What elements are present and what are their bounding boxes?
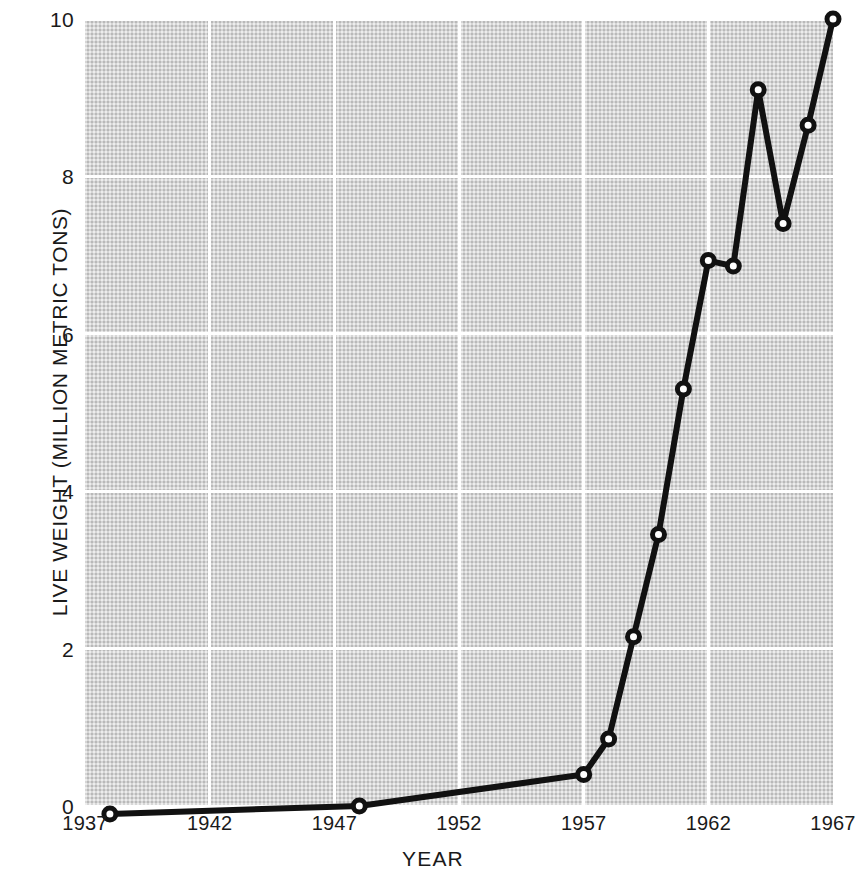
data-point-marker — [777, 218, 789, 230]
data-point-marker — [677, 383, 689, 395]
x-axis-title: YEAR — [0, 847, 866, 871]
data-point-marker — [802, 119, 814, 131]
data-layer — [85, 19, 833, 806]
plot-area — [85, 19, 833, 806]
x-tick-label: 1967 — [810, 813, 855, 833]
data-point-marker — [628, 631, 640, 643]
x-tick-label: 1957 — [561, 813, 606, 833]
x-tick-label: 1962 — [686, 813, 731, 833]
series-line — [110, 19, 833, 814]
data-point-marker — [727, 260, 739, 272]
series-markers — [104, 13, 839, 820]
data-point-marker — [653, 529, 665, 541]
data-point-marker — [827, 13, 839, 25]
y-axis-title: LIVE WEIGHT (MILLION METRIC TONS) — [48, 12, 72, 812]
x-tick-label: 1947 — [312, 813, 357, 833]
data-point-marker — [353, 800, 365, 812]
chart-figure: 0246810 1937194219471952195719621967 YEA… — [0, 0, 866, 892]
x-tick-label: 1937 — [62, 813, 107, 833]
x-tick-label: 1952 — [436, 813, 481, 833]
data-point-marker — [752, 84, 764, 96]
line-series — [85, 19, 833, 806]
x-tick-label: 1942 — [187, 813, 232, 833]
data-point-marker — [702, 255, 714, 267]
data-point-marker — [578, 769, 590, 781]
data-point-marker — [603, 733, 615, 745]
